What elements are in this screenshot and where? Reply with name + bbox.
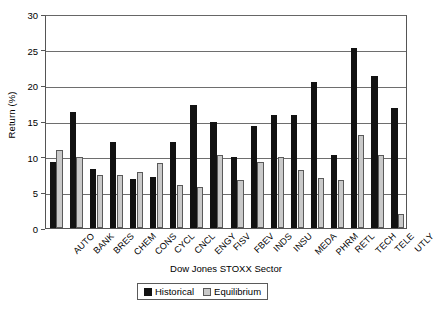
bar-equilibrium — [157, 163, 163, 228]
bar-historical — [231, 157, 237, 228]
bar-historical — [110, 142, 116, 228]
chart-legend: Historical Equilibrium — [137, 283, 268, 300]
x-axis-tick-labels: AUTOBANKBRESCHEMCONSCYCLCNCLENGYFISVFBEV… — [45, 231, 407, 263]
bar-equilibrium — [197, 187, 203, 228]
legend-label-equilibrium: Equilibrium — [214, 286, 261, 297]
bar-historical — [170, 142, 176, 228]
bar-historical — [331, 155, 337, 228]
legend-label-historical: Historical — [155, 286, 194, 297]
y-tick-label: 30 — [27, 11, 38, 20]
x-tick-label: TECH — [373, 231, 398, 256]
bar-equilibrium — [56, 150, 62, 228]
bar-historical — [291, 115, 297, 228]
bar-equilibrium — [378, 155, 384, 228]
bar-historical — [70, 112, 76, 228]
bar-historical — [90, 169, 96, 228]
bar-series-container — [46, 16, 406, 228]
bar-equilibrium — [278, 157, 284, 228]
bar-historical — [311, 82, 317, 228]
x-tick-label: AUTO — [71, 231, 96, 256]
bar-historical — [251, 126, 257, 228]
bar-equilibrium — [76, 157, 82, 228]
x-axis-title: Dow Jones STOXX Sector — [45, 263, 407, 274]
bar-equilibrium — [298, 170, 304, 228]
x-tick-label: UTLY — [413, 231, 436, 254]
bar-historical — [371, 76, 377, 228]
y-tick-label: 10 — [27, 153, 38, 162]
bar-historical — [210, 122, 216, 228]
x-tick-label: INDS — [272, 231, 295, 254]
bar-equilibrium — [237, 180, 243, 229]
y-tick-label: 20 — [27, 82, 38, 91]
y-tick-label: 5 — [33, 189, 38, 198]
x-tick-label: BANK — [91, 231, 116, 256]
bar-historical — [150, 177, 156, 228]
bar-equilibrium — [398, 214, 404, 228]
bar-historical — [391, 108, 397, 228]
x-tick-label: INSU — [292, 231, 315, 254]
bar-equilibrium — [117, 175, 123, 228]
x-tick-label: CONS — [152, 231, 178, 257]
legend-swatch-historical — [144, 288, 152, 296]
bar-equilibrium — [217, 155, 223, 228]
legend-entry-equilibrium: Equilibrium — [203, 286, 261, 297]
bar-equilibrium — [97, 175, 103, 229]
bar-historical — [130, 179, 136, 228]
bar-equilibrium — [318, 178, 324, 228]
legend-entry-historical: Historical — [144, 286, 194, 297]
plot-area — [45, 15, 407, 229]
y-tick-label: 15 — [27, 118, 38, 127]
bar-equilibrium — [177, 185, 183, 229]
x-tick-label: CNCL — [192, 231, 217, 256]
x-tick-label: FBEV — [252, 231, 276, 255]
x-tick-label: CHEM — [132, 231, 158, 257]
bar-historical — [351, 48, 357, 228]
bar-historical — [271, 115, 277, 228]
x-tick-label: BRES — [112, 231, 137, 256]
bar-historical — [50, 162, 56, 228]
x-tick-label: MEDA — [313, 231, 339, 257]
y-axis-ticks: 051015202530 — [0, 15, 45, 229]
y-tick-label: 0 — [33, 225, 38, 234]
bar-equilibrium — [137, 172, 143, 228]
bar-historical — [190, 105, 196, 228]
y-tick-label: 25 — [27, 46, 38, 55]
bar-equilibrium — [257, 162, 263, 228]
bar-equilibrium — [338, 180, 344, 229]
x-tick-label: TELE — [393, 231, 416, 254]
bar-equilibrium — [358, 135, 364, 228]
legend-swatch-equilibrium — [203, 288, 211, 296]
